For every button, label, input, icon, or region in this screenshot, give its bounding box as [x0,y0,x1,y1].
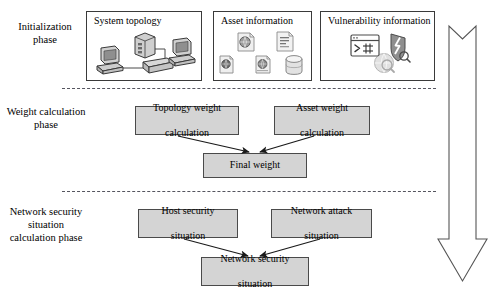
process-box-topology-weight-line1: Topology weight [136,102,238,115]
asset-information-illustration [214,29,313,82]
phase-label-initialization-line1: Initialization [8,20,82,33]
process-box-nss-line1: Network security [202,253,308,266]
phase-label-nss-line1: Network security [2,205,90,218]
phase-separator-2 [62,191,436,192]
document-globe-icon [238,33,254,51]
phase-label-initialization-line2: phase [8,33,82,46]
process-box-asset-weight-line2: calculation [275,127,369,140]
source-box-asset-information[interactable]: Asset information [213,11,312,81]
document-text-icon [277,32,293,51]
process-box-asset-weight-calculation[interactable]: Asset weight calculation [274,106,370,135]
shield-broken-icon [391,34,410,62]
desktop-computer-icon [97,46,123,74]
phase-label-network-security-situation: Network security situation calculation p… [2,205,90,244]
process-box-topology-weight-calculation[interactable]: Topology weight calculation [135,106,239,135]
globe-magnifier-icon [375,54,395,73]
process-box-final-weight-label: Final weight [204,159,306,172]
process-box-topology-weight-line2: calculation [136,127,238,140]
process-box-network-attack-situation[interactable]: Network attack situation [271,209,372,238]
process-box-final-weight[interactable]: Final weight [203,153,307,178]
phase-label-weight-line1: Weight calculation [4,105,88,118]
source-box-vulnerability-information[interactable]: Vulnerability information [320,11,435,81]
process-box-asset-weight-line1: Asset weight [275,102,369,115]
process-box-nss-line2: situation [202,278,308,291]
system-topology-illustration [87,28,203,82]
phase-label-weight-line2: phase [4,118,88,131]
diagram-canvas: Initialization phase Weight calculation … [0,0,495,292]
database-cylinder-icon [286,56,302,75]
source-box-vulnerability-information-title: Vulnerability information [328,15,430,26]
process-flow-arrow [438,26,487,281]
phase-separator-1 [62,88,436,89]
document-globe-icon [256,56,270,73]
source-box-asset-information-title: Asset information [221,15,293,26]
process-box-network-attack-line2: situation [272,230,371,243]
process-box-network-security-situation[interactable]: Network security situation [201,257,309,286]
phase-label-nss-line2: situation [2,218,90,231]
process-box-host-security-line1: Host security [139,205,237,218]
phase-label-nss-line3: calculation phase [2,231,90,244]
phase-label-initialization: Initialization phase [8,20,82,46]
process-box-host-security-line2: situation [139,230,237,243]
process-box-host-security-situation[interactable]: Host security situation [138,209,238,238]
terminal-console-icon [351,35,379,56]
source-box-system-topology[interactable]: System topology [86,11,202,81]
desktop-computer-icon [169,38,195,66]
process-box-network-attack-line1: Network attack [272,205,371,218]
server-icon [135,33,155,58]
phase-label-weight-calculation: Weight calculation phase [4,105,88,131]
vulnerability-information-illustration [321,30,436,82]
source-box-system-topology-title: System topology [94,15,162,26]
document-globe-small-icon [220,56,233,73]
